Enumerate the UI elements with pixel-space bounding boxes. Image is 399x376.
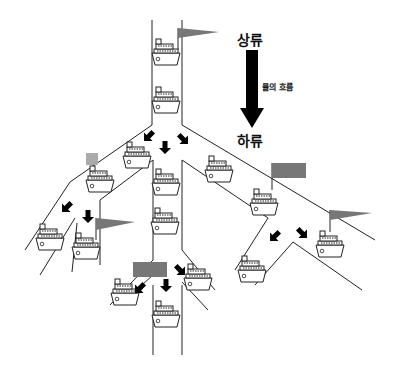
rect-flag-bottom xyxy=(133,262,167,277)
flow-arrow-icon xyxy=(140,128,158,146)
flag-far-right xyxy=(330,210,372,232)
big-flow-arrow-icon xyxy=(240,50,264,128)
ship-icon xyxy=(152,301,180,327)
ship-icon xyxy=(152,87,180,113)
flow-arrow-icon xyxy=(160,279,172,292)
ship-icon xyxy=(151,208,179,234)
flow-arrow-icon xyxy=(159,141,171,154)
flag-top xyxy=(178,28,219,50)
ship-icon xyxy=(152,169,180,195)
ships xyxy=(36,39,344,327)
ship-icon xyxy=(123,142,151,168)
ship-icon xyxy=(238,256,266,282)
upstream-label: 상류 xyxy=(237,32,263,48)
ship-icon xyxy=(316,231,344,257)
ship-icon xyxy=(111,279,139,305)
downstream-label: 하류 xyxy=(237,133,263,149)
light-flag-icon xyxy=(86,153,98,165)
flow-arrow-icon xyxy=(82,210,94,223)
flag-left-lower xyxy=(96,218,135,240)
flow-arrow-icon xyxy=(175,131,193,149)
ship-icon xyxy=(250,189,278,215)
flow-label: 물의 흐름 xyxy=(262,82,294,92)
ship-icon xyxy=(152,39,180,65)
river-diagram: 상류 물의 흐름 하류 xyxy=(0,0,399,376)
rect-flag-right xyxy=(272,163,306,190)
river-lines xyxy=(25,20,375,355)
flow-arrow-icon xyxy=(266,228,284,246)
ship-icon xyxy=(86,166,114,192)
flow-arrow-icon xyxy=(58,199,76,217)
ship-icon xyxy=(36,224,64,250)
ship-icon xyxy=(184,264,212,290)
ship-icon xyxy=(205,156,233,182)
flow-arrow-icon xyxy=(294,225,312,243)
